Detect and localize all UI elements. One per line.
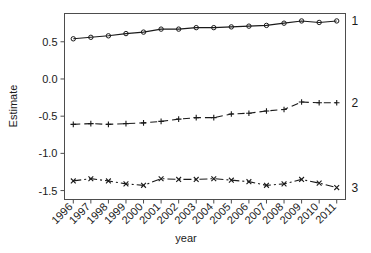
line-chart: 0.50.0-0.5-1.0-1.5 199619971998199920002…: [0, 0, 371, 253]
series-label-1: 1: [352, 14, 359, 28]
series-label-3: 3: [352, 181, 359, 195]
chart-figure: 0.50.0-0.5-1.0-1.5 199619971998199920002…: [0, 0, 371, 253]
y-tick-label: 0.5: [42, 36, 57, 48]
y-tick-label: 0.0: [42, 73, 57, 85]
y-tick-label: -1.5: [39, 185, 58, 197]
x-axis-title: year: [175, 232, 197, 244]
y-axis-title: Estimate: [7, 85, 19, 128]
y-tick-label: -1.0: [39, 147, 58, 159]
y-tick-label: -0.5: [39, 110, 58, 122]
series-label-2: 2: [352, 96, 359, 110]
